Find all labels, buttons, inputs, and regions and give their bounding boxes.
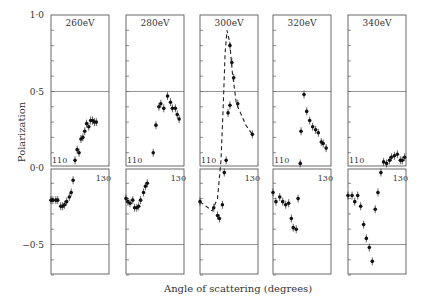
data-point — [296, 197, 300, 201]
x-tick-label: 110 — [201, 156, 216, 165]
data-point — [308, 119, 312, 123]
x-tick-label: 130 — [245, 174, 260, 183]
x-tick-label: 130 — [318, 174, 333, 183]
data-point — [157, 105, 161, 109]
data-point — [224, 159, 228, 163]
panel-280eV: 280eV110130 — [124, 15, 186, 275]
data-point — [311, 125, 315, 129]
data-point — [166, 94, 170, 98]
data-point — [321, 142, 325, 146]
data-point — [85, 122, 89, 126]
data-point — [230, 61, 234, 65]
y-tick-label: 0·0 — [30, 163, 45, 173]
panel-320eV: 320eV110130 — [271, 15, 333, 275]
data-point — [379, 171, 383, 175]
data-point — [73, 159, 77, 163]
data-point — [362, 223, 366, 227]
x-tick-label: 110 — [52, 156, 67, 165]
data-point — [298, 162, 302, 166]
data-point — [232, 76, 236, 80]
data-point — [370, 260, 374, 264]
data-point — [144, 185, 148, 189]
x-tick-label: 130 — [171, 174, 186, 183]
panel-title: 320eV — [287, 18, 317, 28]
data-point — [324, 146, 328, 150]
data-point — [175, 113, 179, 117]
data-point — [162, 107, 166, 111]
data-point — [63, 203, 67, 207]
panels: 260eV110130280eV110130300eV110130320eV11… — [49, 15, 408, 275]
x-tick-label: 110 — [127, 156, 142, 165]
data-point — [154, 123, 158, 127]
data-point — [146, 182, 150, 186]
data-point — [356, 194, 360, 198]
data-point — [299, 129, 303, 133]
panel-340eV: 340eV110130 — [346, 15, 408, 275]
panel-lower-frame — [126, 169, 184, 274]
data-point — [353, 200, 357, 204]
data-point — [251, 133, 255, 137]
data-point — [128, 201, 132, 205]
data-point — [137, 204, 141, 208]
y-tick-label: 1·0 — [30, 10, 45, 20]
data-point — [177, 117, 181, 121]
data-point — [75, 148, 79, 152]
polarization-chart: 1·00·50·0−0·5 260eV110130280eV110130300e… — [0, 0, 428, 296]
panel-300eV: 300eV110130 — [198, 15, 260, 275]
x-axis-label: Angle of scattering (degrees) — [163, 283, 312, 294]
data-point — [373, 208, 377, 212]
panel-lower-frame — [273, 169, 331, 274]
x-tick-label: 110 — [349, 156, 364, 165]
data-point — [274, 200, 278, 204]
theory-curve — [200, 30, 252, 211]
data-point — [305, 110, 309, 114]
y-axis-label: Polarization — [16, 101, 27, 162]
data-point — [236, 102, 240, 106]
data-point — [71, 178, 75, 182]
data-point — [271, 191, 275, 195]
panel-title: 260eV — [65, 18, 95, 28]
x-tick-label: 130 — [393, 174, 408, 183]
data-point — [124, 197, 128, 201]
data-point — [65, 200, 69, 204]
data-point — [228, 44, 232, 48]
data-point — [302, 93, 306, 97]
panel-title: 340eV — [362, 18, 392, 28]
data-point — [228, 103, 232, 107]
y-tick-label: 0·5 — [30, 87, 45, 97]
data-point — [221, 203, 225, 207]
panel-lower-frame — [51, 169, 109, 274]
data-point — [95, 120, 99, 124]
panel-upper-frame — [348, 15, 406, 166]
data-point — [290, 217, 294, 221]
data-point — [359, 204, 363, 208]
data-point — [216, 214, 220, 218]
panel-title: 280eV — [140, 18, 170, 28]
data-point — [368, 246, 372, 250]
data-point — [226, 111, 230, 115]
data-point — [159, 102, 163, 106]
data-point — [83, 129, 87, 133]
data-point — [346, 194, 350, 198]
data-point — [131, 198, 135, 202]
panel-260eV: 260eV110130 — [49, 15, 111, 275]
x-tick-label: 130 — [96, 174, 111, 183]
data-point — [400, 159, 404, 163]
data-point — [56, 198, 60, 202]
data-point — [69, 191, 73, 195]
panel-lower-frame — [348, 169, 406, 274]
panel-upper-frame — [51, 15, 109, 166]
data-point — [222, 171, 226, 175]
data-point — [287, 201, 291, 205]
data-point — [403, 155, 407, 159]
data-point — [169, 100, 173, 104]
data-point — [385, 162, 389, 166]
data-point — [139, 198, 143, 202]
data-point — [77, 151, 81, 155]
data-point — [68, 195, 72, 199]
data-point — [281, 200, 285, 204]
data-point — [174, 107, 178, 111]
panel-upper-frame — [126, 15, 184, 166]
data-point — [151, 151, 155, 155]
data-point — [87, 125, 91, 129]
